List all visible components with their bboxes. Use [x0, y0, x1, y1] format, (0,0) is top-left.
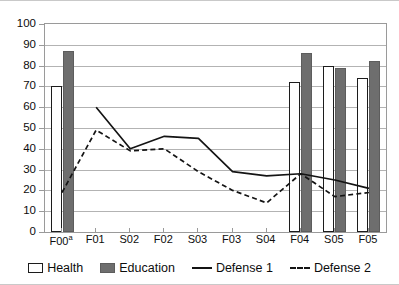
x-axis-tick-label-text: S03	[188, 233, 208, 245]
legend-swatch-box-white-icon	[28, 263, 43, 273]
x-axis-tick-label-text: S04	[256, 233, 276, 245]
y-axis-labels: 0102030405060708090100	[0, 1, 40, 247]
x-axis-tick-label-S04: S04	[256, 234, 276, 245]
x-axis-tick-label-text: F01	[86, 233, 105, 245]
line-layer	[45, 24, 386, 232]
y-axis-tick-label: 90	[23, 39, 36, 51]
x-axis-tick-label-text: S02	[119, 233, 139, 245]
legend-item-education[interactable]: Education	[100, 262, 175, 275]
y-axis-tick-label: 20	[23, 185, 36, 197]
y-axis-tick-label: 100	[17, 18, 36, 30]
legend-item-label: Defense 2	[314, 262, 371, 275]
legend-item-label: Defense 1	[216, 262, 273, 275]
plot-area	[44, 23, 387, 233]
x-axis-tick-label-text: F00	[49, 235, 68, 247]
x-axis-tick-label-text: F05	[358, 233, 377, 245]
y-axis-tick-mark	[39, 66, 44, 67]
y-axis-tick-label: 40	[23, 143, 36, 155]
x-axis-tick-label-F05: F05	[358, 234, 377, 245]
y-axis-tick-mark	[39, 107, 44, 108]
x-axis-tick-mark	[61, 228, 62, 233]
y-axis-tick-label: 60	[23, 101, 36, 113]
legend-item-health[interactable]: Health	[28, 262, 83, 275]
y-axis-tick-mark	[39, 128, 44, 129]
x-axis-tick-label-text: F04	[290, 233, 309, 245]
x-axis-tick-label-S03: S03	[188, 234, 208, 245]
x-axis-tick-label-F03: F03	[222, 234, 241, 245]
x-axis-tick-label-F01: F01	[86, 234, 105, 245]
x-axis-tick-label-F02: F02	[154, 234, 173, 245]
legend-swatch-line-dashed-icon	[290, 267, 310, 269]
line-defense-2	[62, 130, 369, 203]
y-axis-tick-mark	[39, 24, 44, 25]
x-axis-tick-label-F00a: F00a	[49, 234, 72, 247]
line-defense-1	[96, 107, 369, 188]
legend-item-label: Health	[47, 262, 83, 275]
legend-item-label: Education	[119, 262, 175, 275]
y-axis-tick-label: 70	[23, 81, 36, 93]
y-axis-tick-label: 30	[23, 164, 36, 176]
x-axis-tick-label-S05: S05	[324, 234, 344, 245]
chart-figure: 0102030405060708090100 F00aF01S02F02S03F…	[0, 0, 399, 285]
x-axis-tick-label-superscript: a	[68, 233, 72, 242]
y-axis-tick-label: 50	[23, 122, 36, 134]
x-axis-tick-label-text: S05	[324, 233, 344, 245]
y-axis-tick-label: 10	[23, 205, 36, 217]
legend-item-defense-2[interactable]: Defense 2	[290, 262, 371, 275]
y-axis-tick-mark	[39, 232, 44, 233]
x-axis-tick-label-F04: F04	[290, 234, 309, 245]
legend-swatch-box-gray-icon	[100, 263, 115, 273]
y-axis-tick-mark	[39, 86, 44, 87]
legend-swatch-line-solid-icon	[192, 267, 212, 269]
x-axis-labels: F00aF01S02F02S03F03S04F04S05F05	[44, 234, 387, 252]
y-axis-tick-label: 80	[23, 60, 36, 72]
x-axis-tick-label-text: F03	[222, 233, 241, 245]
legend-item-defense-1[interactable]: Defense 1	[192, 262, 273, 275]
y-axis-tick-label: 0	[30, 226, 36, 238]
chart-legend: HealthEducationDefense 1Defense 2	[0, 257, 399, 279]
x-axis-tick-label-text: F02	[154, 233, 173, 245]
y-axis-tick-mark	[39, 190, 44, 191]
y-axis-tick-mark	[39, 211, 44, 212]
y-axis-tick-mark	[39, 45, 44, 46]
plot-area-wrapper: 0102030405060708090100 F00aF01S02F02S03F…	[0, 1, 399, 247]
y-axis-tick-mark	[39, 170, 44, 171]
y-axis-tick-mark	[39, 149, 44, 150]
x-axis-tick-label-S02: S02	[119, 234, 139, 245]
